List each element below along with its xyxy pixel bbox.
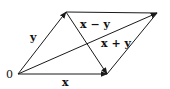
vector-x-label: x <box>62 76 69 89</box>
vector-x-minus-y-label: x − y <box>80 18 110 31</box>
vector-y-arrow <box>18 12 66 74</box>
vector-parallelogram-diagram: 0 x y x + y x − y <box>0 0 170 89</box>
origin-label: 0 <box>6 68 13 81</box>
vector-x-plus-y-label: x + y <box>101 37 131 50</box>
top-edge <box>66 12 157 13</box>
vector-y-label: y <box>29 31 37 44</box>
